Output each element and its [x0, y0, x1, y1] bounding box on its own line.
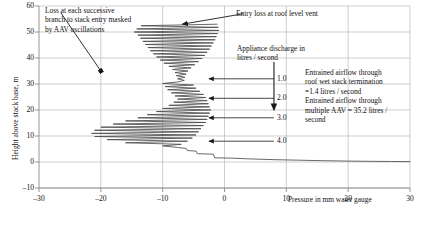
- annotation-appliance-discharge: Appliance discharge in litres / second: [237, 44, 357, 63]
- y-tick-label: 40: [14, 53, 34, 62]
- discharge-label-4-0: 4.0: [277, 136, 287, 145]
- discharge-label-1-0: 1.0: [277, 74, 287, 83]
- x-tick-label: –20: [92, 194, 110, 203]
- x-tick-label: –30: [30, 194, 48, 203]
- annotation-entry-loss: Entry loss at roof level vent: [236, 9, 386, 18]
- y-tick-label: –10: [14, 183, 34, 192]
- y-tick-label: 30: [14, 79, 34, 88]
- x-tick-label: 20: [339, 194, 357, 203]
- x-tick-label: –10: [154, 194, 172, 203]
- discharge-label-3-0: 3.0: [277, 113, 287, 122]
- chart-root: Height above stack base, m Loss at each …: [0, 0, 423, 232]
- discharge-label-2-0: 2.0: [277, 93, 287, 102]
- annotation-loss-branch: Loss at each successive branch to stack …: [45, 6, 185, 34]
- x-tick-label: 10: [277, 194, 295, 203]
- y-tick-label: 10: [14, 131, 34, 140]
- x-tick-label: 0: [216, 194, 234, 203]
- y-axis-label: Height above stack base, m: [11, 77, 20, 160]
- y-tick-label: 0: [14, 157, 34, 166]
- annotation-entrained-airflow: Entrained airflow through roof wet stack…: [305, 68, 413, 124]
- y-tick-label: 20: [14, 105, 34, 114]
- x-tick-label: 30: [401, 194, 419, 203]
- y-tick-label: 50: [14, 27, 34, 36]
- y-tick-label: 60: [14, 1, 34, 10]
